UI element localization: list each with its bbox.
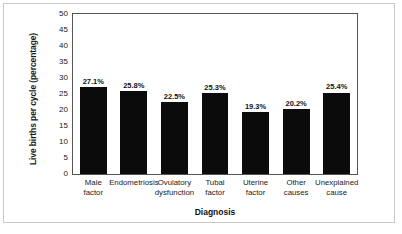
bar-value-label: 22.5% [161,92,188,101]
y-tick-label: 50 [44,10,68,18]
bar [242,112,269,174]
bar [323,93,350,174]
bars-container: 27.1%25.8%22.5%25.3%19.3%20.2%25.4% [73,14,357,174]
bar-group: 27.1% [80,14,107,174]
bar-group: 25.8% [120,14,147,174]
bar-group: 22.5% [161,14,188,174]
y-tick-label: 5 [44,154,68,162]
x-category-label-line2: factor [66,188,120,198]
y-tick-label: 35 [44,58,68,66]
x-axis-category-labels: MalefactorEndometriosisOvulatorydysfunct… [73,178,357,206]
bar-group: 20.2% [283,14,310,174]
bar-group: 25.3% [202,14,229,174]
bar-value-label: 27.1% [80,77,107,86]
y-axis-title: Live births per cycle (percentage) [28,19,38,179]
y-tick-label: 25 [44,90,68,98]
x-category-label: Unexplainedcause [310,178,364,198]
bar-group: 25.4% [323,14,350,174]
bar [283,109,310,174]
y-tick-label: 10 [44,138,68,146]
x-axis-title: Diagnosis [72,207,358,217]
y-tick-label: 30 [44,74,68,82]
bar-value-label: 20.2% [283,99,310,108]
y-tick-label: 15 [44,122,68,130]
y-tick-label: 20 [44,106,68,114]
bar-group: 19.3% [242,14,269,174]
bar-value-label: 19.3% [242,102,269,111]
bar-value-label: 25.4% [323,82,350,91]
x-category-label-line1: Unexplained [310,178,364,188]
x-category-label-line2: cause [310,188,364,198]
bar-value-label: 25.3% [202,83,229,92]
bar-value-label: 25.8% [120,81,147,90]
bar [161,102,188,174]
bar [202,93,229,174]
y-tick-label: 0 [44,170,68,178]
bar [120,91,147,174]
y-tick-label: 45 [44,26,68,34]
bar [80,87,107,174]
bar-chart: Live births per cycle (percentage) 50454… [0,0,402,234]
y-tick-label: 40 [44,42,68,50]
